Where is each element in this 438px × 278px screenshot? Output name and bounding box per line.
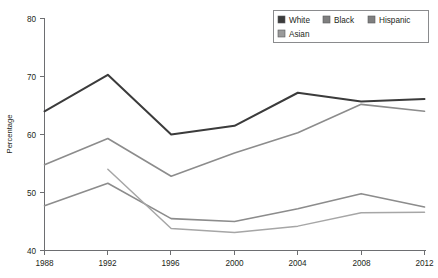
x-tick-label: 1988 xyxy=(35,259,54,268)
legend-label-black: Black xyxy=(334,16,355,25)
y-tick-label: 50 xyxy=(27,189,37,198)
x-tick-label: 1992 xyxy=(98,259,117,268)
legend-swatch-asian xyxy=(278,30,285,37)
x-axis-ticks xyxy=(45,251,425,256)
legend-label-white: White xyxy=(289,16,310,25)
x-tick-label: 2012 xyxy=(415,259,434,268)
legend-swatch-white xyxy=(278,16,285,23)
x-tick-label: 2008 xyxy=(352,259,371,268)
series-line-black xyxy=(45,104,425,176)
chart-svg: 80 70 60 50 40 Percentage 1988 1992 1996… xyxy=(0,0,438,278)
y-tick-label: 60 xyxy=(27,131,37,140)
x-tick-label: 1996 xyxy=(161,259,180,268)
series-line-hispanic xyxy=(45,183,425,221)
x-axis-tick-labels: 1988 1992 1996 2000 2004 2008 2012 xyxy=(35,259,434,268)
x-tick-label: 2000 xyxy=(225,259,244,268)
y-tick-label: 80 xyxy=(27,15,37,24)
legend-swatch-black xyxy=(323,16,330,23)
y-axis-ticks xyxy=(40,19,45,251)
series-line-asian xyxy=(108,169,425,232)
chart-legend: White Black Hispanic Asian xyxy=(274,11,429,43)
legend-swatch-hispanic xyxy=(368,16,375,23)
y-axis-tick-labels: 80 70 60 50 40 xyxy=(27,15,37,256)
x-tick-label: 2004 xyxy=(288,259,307,268)
legend-label-hispanic: Hispanic xyxy=(379,16,410,25)
y-tick-label: 40 xyxy=(27,247,37,256)
series-group xyxy=(45,75,425,233)
y-axis-title: Percentage xyxy=(5,115,14,154)
legend-label-asian: Asian xyxy=(289,30,310,39)
line-chart: 80 70 60 50 40 Percentage 1988 1992 1996… xyxy=(0,0,438,278)
y-tick-label: 70 xyxy=(27,73,37,82)
